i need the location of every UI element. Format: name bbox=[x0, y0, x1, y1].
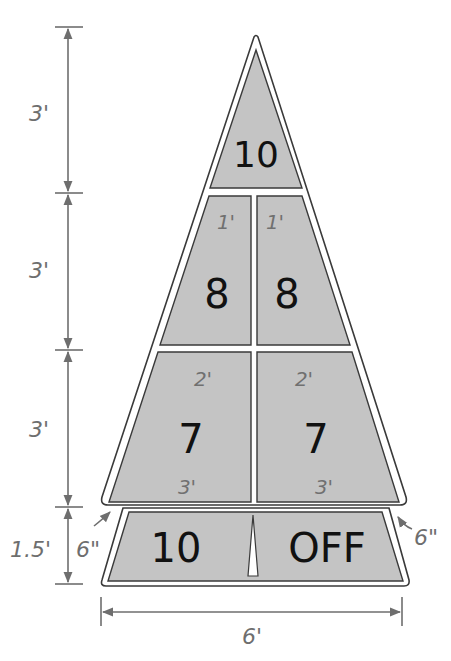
zone-row3-left-score: 7 bbox=[178, 416, 203, 462]
zone-row3-right-bottom-label: 3' bbox=[315, 475, 333, 499]
zone-top-10: 10 bbox=[210, 50, 302, 188]
zone-row3-left-top-label: 2' bbox=[194, 367, 212, 391]
gap-right-arrow-icon bbox=[398, 517, 412, 529]
zone-row2-left-score: 8 bbox=[204, 271, 229, 317]
shuffleboard-diagram: 10 1' 8 1' 8 2' 7 3' 2' 7 3' 10 OFF bbox=[0, 0, 451, 661]
zone-row3-right-top-label: 2' bbox=[295, 367, 313, 391]
zone-top-score: 10 bbox=[233, 134, 279, 175]
gap-left-label: 6" bbox=[76, 537, 100, 562]
dim-left-1: 3' bbox=[29, 101, 49, 126]
zone-row3-right-score: 7 bbox=[303, 416, 328, 462]
zone-row2-right-width-label: 1' bbox=[266, 210, 284, 234]
gap-left-arrow-icon bbox=[94, 512, 110, 526]
zone-row3-left-bottom-label: 3' bbox=[178, 475, 196, 499]
dim-left-2: 3' bbox=[29, 258, 49, 283]
zone-bottom-left-score: 10 bbox=[151, 525, 202, 571]
dim-left-4: 1.5' bbox=[10, 537, 51, 562]
gap-right-label: 6" bbox=[414, 525, 438, 550]
left-dimension bbox=[55, 27, 83, 584]
bottom-dimension bbox=[101, 597, 402, 626]
dim-left-3: 3' bbox=[29, 417, 49, 442]
bottom-trapezoid-outline: 10 OFF bbox=[102, 508, 410, 586]
zone-bottom-right-score: OFF bbox=[288, 525, 366, 571]
zone-row2-right: 1' 8 bbox=[257, 196, 350, 345]
zone-row2-left: 1' 8 bbox=[160, 196, 251, 345]
dim-bottom-width: 6' bbox=[242, 624, 262, 649]
zone-row2-right-score: 8 bbox=[274, 271, 299, 317]
zone-row2-left-width-label: 1' bbox=[217, 210, 235, 234]
